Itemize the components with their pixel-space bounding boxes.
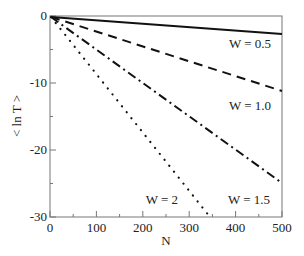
x-tick-label: 100 [87, 220, 107, 235]
series-label-w-1-0: W = 1.0 [229, 98, 271, 113]
series-w-0-5-line [51, 17, 282, 34]
y-tick-label: -10 [30, 75, 47, 90]
series-label-w-2: W = 2 [146, 192, 178, 207]
y-tick-label: 0 [41, 8, 48, 23]
x-axis-label: N [161, 233, 171, 248]
series-label-w-1-5: W = 1.5 [228, 192, 270, 207]
series-label-w-0-5: W = 0.5 [229, 36, 271, 51]
x-tick-label: 300 [179, 220, 199, 235]
x-tick-label: 400 [226, 220, 246, 235]
y-tick-label: -30 [30, 209, 47, 224]
x-tick-label: 0 [47, 220, 54, 235]
series-w-1-0-line [51, 17, 282, 91]
chart: 0 100 200 300 400 500 0 -10 -20 -30 N < … [0, 0, 304, 256]
y-ticks [50, 16, 56, 217]
x-tick-label: 200 [133, 220, 153, 235]
y-axis-label: < ln T > [9, 95, 24, 137]
series-w-2-line [51, 17, 210, 217]
y-tick-label: -20 [30, 142, 47, 157]
x-ticks [50, 211, 282, 217]
x-tick-label: 500 [272, 220, 292, 235]
